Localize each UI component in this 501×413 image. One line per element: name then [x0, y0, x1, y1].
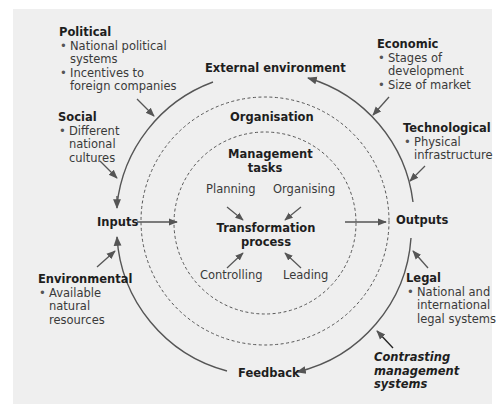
environmental-arrow: [97, 251, 115, 267]
leading-label: Leading: [283, 269, 328, 283]
transformation-process-label: Transformation process: [214, 222, 318, 249]
legal-arrow: [413, 251, 428, 268]
technological-factor: Technological Physical infrastructure: [403, 122, 493, 163]
economic-bullet: Size of market: [377, 79, 471, 93]
leading-arrow: [285, 253, 301, 268]
organisation-label: Organisation: [230, 111, 314, 125]
organising-label: Organising: [273, 183, 335, 197]
environmental-factor: Environmental Available natural resource…: [38, 273, 132, 327]
contrasting-management-systems-label: Contrasting management systems: [374, 351, 459, 392]
controlling-label: Controlling: [200, 269, 263, 283]
outputs-label: Outputs: [396, 214, 448, 228]
social-bullet: Different national cultures: [58, 125, 119, 166]
economic-factor: Economic Stages of development Size of m…: [377, 38, 471, 92]
economic-bullet: Stages of development: [377, 52, 471, 79]
inputs-label: Inputs: [97, 216, 138, 230]
economic-arrow: [373, 97, 389, 115]
arc-inputs-to-environment: [117, 82, 213, 205]
planning-arrow: [227, 207, 243, 220]
political-bullet: National political systems: [59, 40, 177, 67]
arc-feedback-to-inputs: [117, 237, 227, 371]
feedback-label: Feedback: [238, 367, 300, 381]
technological-title: Technological: [403, 122, 493, 136]
contrasting-arrow: [377, 331, 393, 348]
planning-label: Planning: [206, 183, 256, 197]
legal-factor: Legal National and international legal s…: [406, 272, 496, 326]
management-tasks-label: Management tasks: [228, 148, 302, 175]
organising-arrow: [285, 207, 301, 220]
environmental-title: Environmental: [38, 273, 132, 287]
legal-bullet: National and international legal systems: [406, 286, 496, 327]
environmental-bullet: Available natural resources: [38, 287, 132, 328]
social-title: Social: [58, 111, 119, 125]
economic-title: Economic: [377, 38, 471, 52]
legal-title: Legal: [406, 272, 496, 286]
political-arrow: [137, 99, 154, 116]
political-bullet: Incentives to foreign companies: [59, 67, 177, 94]
political-factor: Political National political systems Inc…: [59, 26, 177, 94]
external-environment-label: External environment: [205, 62, 346, 76]
technological-bullet: Physical infrastructure: [403, 136, 493, 163]
social-factor: Social Different national cultures: [58, 111, 119, 165]
controlling-arrow: [227, 253, 243, 268]
technological-arrow: [410, 166, 425, 181]
political-title: Political: [59, 26, 177, 40]
